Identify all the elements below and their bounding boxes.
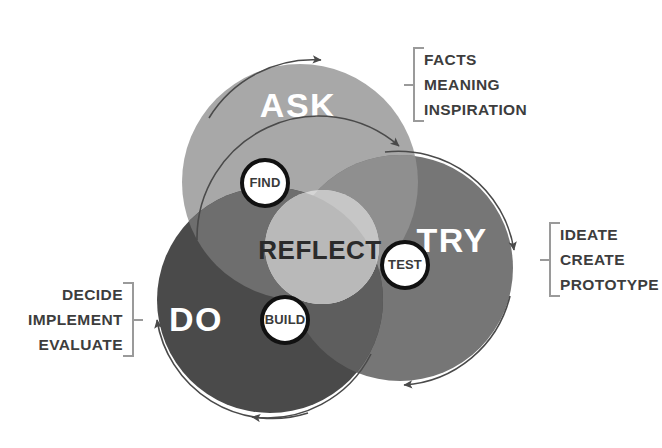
annotation-ask-lines: FACTS MEANING INSPIRATION <box>424 47 527 122</box>
annotation-ask-line-1: FACTS <box>424 47 527 72</box>
annotation-try: IDEATE CREATE PROTOTYPE <box>540 222 659 297</box>
label-do: DO <box>169 300 223 338</box>
annotation-ask-line-2: MEANING <box>424 72 527 97</box>
annotation-do-line-2: IMPLEMENT <box>28 307 123 332</box>
annotation-do: DECIDE IMPLEMENT EVALUATE <box>28 282 143 357</box>
annotation-try-tick <box>540 259 549 261</box>
diagram-canvas: ASK TRY DO REFLECT FIND TEST BUILD <box>0 0 662 448</box>
badge-test-label: TEST <box>388 257 422 272</box>
annotation-try-lines: IDEATE CREATE PROTOTYPE <box>560 222 659 297</box>
annotation-try-bracket <box>549 222 560 297</box>
badge-build[interactable]: BUILD <box>262 297 308 343</box>
annotation-ask-bracket <box>413 47 424 122</box>
label-reflect: REFLECT <box>258 235 381 265</box>
annotation-do-tick <box>134 319 143 321</box>
annotation-try-line-2: CREATE <box>560 247 659 272</box>
badge-find-label: FIND <box>249 175 280 190</box>
annotation-do-bracket <box>123 282 134 357</box>
annotation-do-line-3: EVALUATE <box>38 332 122 357</box>
badge-find[interactable]: FIND <box>242 160 288 206</box>
annotation-ask: FACTS MEANING INSPIRATION <box>404 47 527 122</box>
annotation-try-line-1: IDEATE <box>560 222 659 247</box>
badge-build-label: BUILD <box>265 312 306 327</box>
annotation-ask-line-3: INSPIRATION <box>424 97 527 122</box>
badge-test[interactable]: TEST <box>382 242 428 288</box>
annotation-do-line-1: DECIDE <box>62 282 123 307</box>
annotation-do-lines: DECIDE IMPLEMENT EVALUATE <box>28 282 123 357</box>
annotation-ask-tick <box>404 84 413 86</box>
annotation-try-line-3: PROTOTYPE <box>560 272 659 297</box>
